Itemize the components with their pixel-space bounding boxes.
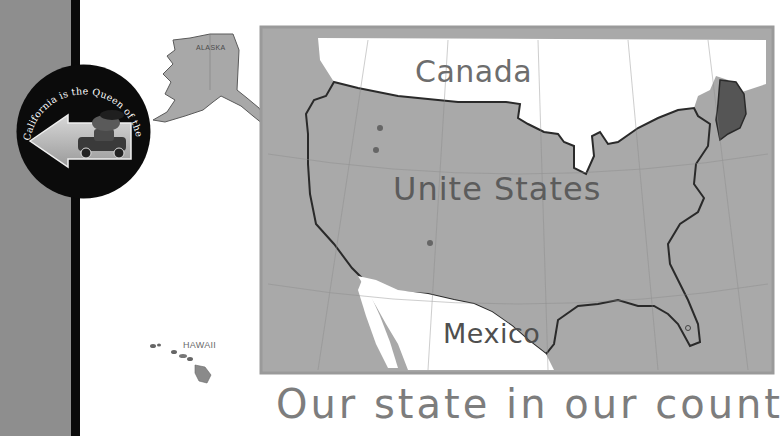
- mexico-label: Mexico: [443, 318, 540, 349]
- hawaii-label: HAWAII: [183, 340, 216, 350]
- united-states-label: Unite States: [393, 170, 601, 208]
- caption: Our state in our country: [276, 381, 776, 427]
- alaska-inset-map: [145, 20, 270, 130]
- canada-label: Canada: [415, 54, 532, 89]
- california-badge: California is the Queen of the West: [16, 63, 151, 200]
- alaska-label: ALASKA: [196, 44, 226, 51]
